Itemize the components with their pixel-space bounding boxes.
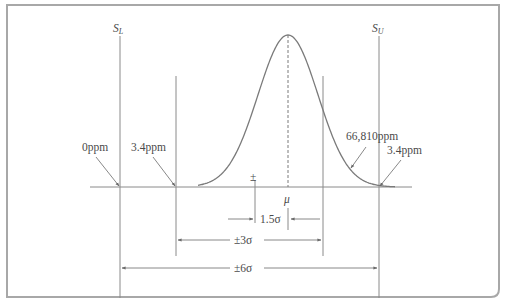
defect-label-66810ppm: 66,810ppm	[346, 130, 398, 143]
shift-dimension-label: 1.5σ	[260, 213, 281, 225]
six-sigma-diagram: SL SU μ ± 0ppm 3.4ppm 66,810ppm 3.4ppm 1…	[0, 0, 505, 304]
lower-spec-label: SL	[113, 22, 124, 36]
diagram-frame	[7, 5, 499, 297]
leader-arrow-3-4ppm-upper	[380, 160, 401, 186]
defect-label-0ppm: 0ppm	[82, 141, 108, 154]
normal-distribution-curve	[198, 35, 395, 187]
leader-arrow-3-4ppm-lower	[153, 157, 175, 186]
defect-label-3-4ppm-upper: 3.4ppm	[387, 144, 422, 157]
shift-marker-label: ±	[250, 171, 256, 183]
mean-label: μ	[283, 193, 290, 206]
upper-spec-label: SU	[372, 22, 385, 36]
leader-arrow-0ppm	[96, 157, 119, 186]
three-sigma-label: ±3σ	[234, 234, 253, 246]
six-sigma-label: ±6σ	[234, 262, 253, 274]
leader-arrow-66810ppm	[351, 147, 366, 168]
defect-label-3-4ppm-lower: 3.4ppm	[131, 141, 166, 154]
